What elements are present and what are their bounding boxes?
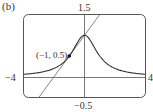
point-label: (−1, 0.5) bbox=[36, 50, 67, 60]
plot-area bbox=[0, 0, 153, 112]
y-max-label: 1.5 bbox=[78, 3, 91, 13]
x-min-label: −4 bbox=[5, 73, 16, 83]
x-max-label: 4 bbox=[148, 73, 153, 83]
y-min-label: −0.5 bbox=[74, 101, 92, 111]
tangent-point-marker bbox=[67, 54, 71, 58]
